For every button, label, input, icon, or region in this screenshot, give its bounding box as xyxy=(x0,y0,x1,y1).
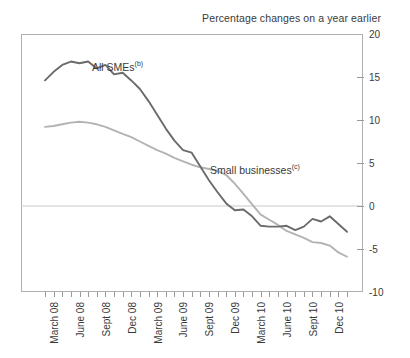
x-tick-mark xyxy=(321,292,322,297)
series-label-small-businesses: Small businesses(c) xyxy=(210,163,300,176)
x-tick-mark xyxy=(330,292,331,297)
x-tick-label: June 09 xyxy=(178,302,189,338)
x-tick-label: Dec 08 xyxy=(127,302,138,334)
x-tick-mark xyxy=(80,292,81,297)
plot-lines xyxy=(21,34,363,292)
x-tick-mark xyxy=(304,292,305,297)
x-tick-mark xyxy=(45,292,46,297)
series-label-small-businesses-footnote: (c) xyxy=(292,163,300,170)
series-label-all-smes-text: All SMEs xyxy=(92,61,135,73)
x-tick-mark xyxy=(261,292,262,297)
x-tick-mark xyxy=(131,292,132,297)
x-tick-label: Sept 10 xyxy=(308,302,319,336)
x-tick-mark xyxy=(218,292,219,297)
x-tick-mark xyxy=(312,292,313,297)
x-tick-label: June 10 xyxy=(282,302,293,338)
line-small-businesses xyxy=(45,122,347,257)
chart-container: Percentage changes on a year earlier 201… xyxy=(0,0,410,358)
x-tick-label: March 08 xyxy=(49,302,60,344)
x-tick-mark xyxy=(105,292,106,297)
series-label-small-businesses-text: Small businesses xyxy=(210,164,292,176)
x-tick-mark xyxy=(269,292,270,297)
x-tick-mark xyxy=(62,292,63,297)
x-tick-mark xyxy=(157,292,158,297)
x-tick-mark xyxy=(88,292,89,297)
x-tick-label: Sept 09 xyxy=(204,302,215,336)
y-tick-label: 10 xyxy=(369,115,380,126)
x-tick-mark xyxy=(235,292,236,297)
x-tick-mark xyxy=(287,292,288,297)
series-label-all-smes-footnote: (b) xyxy=(135,60,144,67)
y-tick-label: 5 xyxy=(369,158,375,169)
x-tick-mark xyxy=(71,292,72,297)
y-tick-label: 0 xyxy=(369,201,375,212)
x-tick-mark xyxy=(200,292,201,297)
x-tick-mark xyxy=(278,292,279,297)
x-tick-mark xyxy=(149,292,150,297)
x-tick-label: Dec 09 xyxy=(230,302,241,334)
x-tick-label: Dec 10 xyxy=(334,302,345,334)
x-tick-mark xyxy=(97,292,98,297)
x-tick-label: March 09 xyxy=(153,302,164,344)
x-tick-mark xyxy=(295,292,296,297)
y-tick-label: -5 xyxy=(369,244,378,255)
x-tick-mark xyxy=(54,292,55,297)
chart-title: Percentage changes on a year earlier xyxy=(0,12,381,24)
y-tick-mark xyxy=(357,206,364,207)
x-tick-mark xyxy=(243,292,244,297)
series-label-all-smes: All SMEs(b) xyxy=(92,60,143,73)
y-tick-label: 20 xyxy=(369,29,380,40)
x-tick-mark xyxy=(123,292,124,297)
x-tick-mark xyxy=(166,292,167,297)
x-tick-label: March 10 xyxy=(256,302,267,344)
x-tick-mark xyxy=(347,292,348,297)
y-tick-label: 15 xyxy=(369,72,380,83)
x-tick-label: June 08 xyxy=(75,302,86,338)
x-tick-mark xyxy=(252,292,253,297)
y-tick-mark xyxy=(357,77,364,78)
x-tick-mark xyxy=(338,292,339,297)
y-tick-mark xyxy=(357,120,364,121)
x-tick-mark xyxy=(183,292,184,297)
y-tick-mark xyxy=(357,163,364,164)
x-tick-mark xyxy=(226,292,227,297)
x-tick-label: Sept 08 xyxy=(101,302,112,336)
x-tick-mark xyxy=(192,292,193,297)
y-tick-mark xyxy=(357,249,364,250)
x-tick-mark xyxy=(209,292,210,297)
x-tick-mark xyxy=(140,292,141,297)
x-tick-mark xyxy=(174,292,175,297)
y-tick-label: -10 xyxy=(369,287,383,298)
x-tick-mark xyxy=(114,292,115,297)
